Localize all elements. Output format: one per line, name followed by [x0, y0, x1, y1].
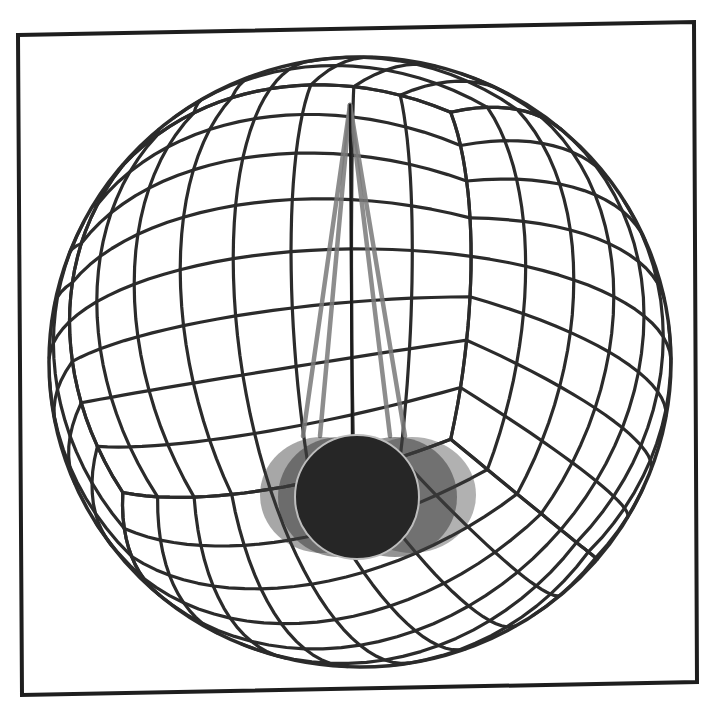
figure-frame [18, 22, 697, 695]
grid-line [596, 487, 644, 558]
grid-line [588, 325, 671, 552]
grid-line [533, 558, 596, 616]
grid-line [97, 115, 460, 205]
pendulum-bob [295, 435, 419, 559]
grid-line [461, 74, 541, 117]
grid-line [134, 113, 194, 497]
grid-line [180, 98, 232, 495]
grid-line [561, 129, 644, 530]
grid-line [461, 388, 629, 518]
grid-line [467, 179, 645, 240]
grid-line [391, 552, 588, 666]
cubed-sphere-grid [49, 57, 671, 666]
grid-line [233, 89, 270, 490]
grid-line [242, 542, 577, 663]
pendulum-ghost-string [350, 105, 405, 436]
grid-line [487, 107, 525, 469]
grid-line [291, 85, 311, 482]
grid-line [470, 218, 664, 299]
grid-line [70, 166, 123, 493]
pendulum-sphere-figure [0, 0, 721, 707]
